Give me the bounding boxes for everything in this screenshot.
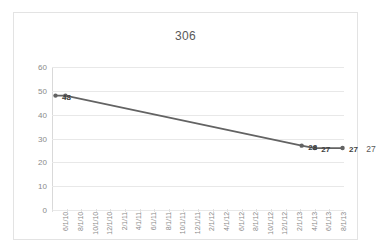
data-point-marker xyxy=(53,93,57,97)
x-axis-tickmark xyxy=(300,209,301,212)
x-axis-tick-label: 2/1/13 xyxy=(296,212,303,231)
x-axis-tick-label: 6/1/12 xyxy=(238,212,245,231)
x-axis-tickmark xyxy=(183,209,184,212)
x-axis-tick-label: 4/1/13 xyxy=(311,212,318,231)
x-axis-tickmark xyxy=(125,209,126,212)
y-axis-tick-label: 20 xyxy=(38,158,47,167)
x-axis-tick-label: 12/1/11 xyxy=(194,212,201,234)
x-axis-tickmark xyxy=(154,209,155,212)
x-axis-tick-label: 6/1/10 xyxy=(62,212,69,231)
x-axis-tickmark xyxy=(198,209,199,212)
x-axis-tick-label: 2/1/12 xyxy=(208,212,215,231)
x-axis-tickmark xyxy=(286,209,287,212)
x-axis-tick-label: 8/1/12 xyxy=(252,212,259,231)
y-axis-tick-label: 60 xyxy=(38,63,47,72)
x-axis-tickmark xyxy=(227,209,228,212)
x-axis-tick-label: 8/1/10 xyxy=(77,212,84,231)
x-axis-tickmark xyxy=(271,209,272,212)
y-axis-tick-label: 0 xyxy=(43,206,47,215)
x-axis-tick-label: 12/1/12 xyxy=(281,212,288,235)
x-axis-tick-label: 8/1/13 xyxy=(340,212,347,231)
x-axis-tick-label: 4/1/12 xyxy=(223,212,230,231)
x-axis-tickmark xyxy=(242,209,243,212)
x-axis-tick-label: 10/1/10 xyxy=(92,212,99,235)
x-axis-tick-label: 10/1/12 xyxy=(267,212,274,235)
y-axis-tick-label: 50 xyxy=(38,86,47,95)
y-axis-tick-label: 30 xyxy=(38,134,47,143)
x-axis-tickmark xyxy=(169,209,170,212)
y-axis-tick-label: 40 xyxy=(38,110,47,119)
x-axis-tick-label: 8/1/11 xyxy=(165,212,172,230)
data-label: 28 xyxy=(308,142,317,151)
data-point-marker xyxy=(340,146,344,150)
data-label: 27 xyxy=(349,145,358,154)
plot-area: 0102030405060 4828272727 xyxy=(52,67,344,210)
chart-title: 306 xyxy=(14,29,357,43)
x-axis-tick-label: 4/1/11 xyxy=(135,212,142,230)
y-axis-tick-label: 10 xyxy=(38,182,47,191)
x-axis-tickmark xyxy=(67,209,68,212)
x-axis-tickmark xyxy=(256,209,257,212)
x-axis-tickmark xyxy=(213,209,214,212)
chart-frame: 306 0102030405060 4828272727 6/1/108/1/1… xyxy=(13,12,358,240)
x-axis-tick-label: 2/1/11 xyxy=(121,212,128,230)
end-value-annotation: 27 xyxy=(366,144,375,154)
x-axis-tickmark xyxy=(96,209,97,212)
x-axis-tick-label: 12/1/10 xyxy=(106,212,113,235)
x-axis-tickmark xyxy=(140,209,141,212)
x-axis-tickmark xyxy=(329,209,330,212)
x-axis-tickmark xyxy=(52,209,53,212)
series-line-306 xyxy=(52,67,344,210)
x-axis-tickmark xyxy=(81,209,82,212)
x-axis-tickmark xyxy=(315,209,316,212)
series-line xyxy=(56,96,343,148)
x-axis-tick-label: 6/1/13 xyxy=(325,212,332,231)
data-label: 48 xyxy=(62,92,71,101)
x-axis-tick-label: 10/1/11 xyxy=(179,212,186,234)
data-label: 27 xyxy=(321,145,330,154)
category-axis-labels: 6/1/108/1/1010/1/1012/1/102/1/114/1/116/… xyxy=(52,212,344,251)
data-point-marker xyxy=(299,143,303,147)
x-axis-tick-label: 6/1/11 xyxy=(150,212,157,230)
x-axis-tickmark xyxy=(110,209,111,212)
